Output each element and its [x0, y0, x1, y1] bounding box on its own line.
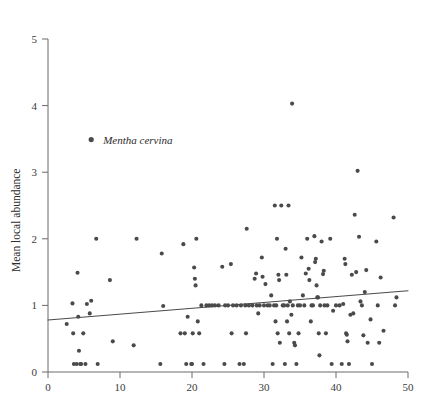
data-point	[220, 265, 224, 269]
data-point	[379, 275, 383, 279]
data-point	[328, 237, 332, 241]
data-point	[345, 339, 349, 343]
data-point	[192, 265, 196, 269]
data-point	[158, 362, 162, 366]
data-point	[374, 239, 378, 243]
data-point	[96, 362, 100, 366]
data-point	[253, 277, 257, 281]
data-point	[318, 303, 322, 307]
data-point	[277, 278, 281, 282]
y-tick-label: 5	[32, 33, 38, 45]
x-tick-label: 50	[403, 381, 415, 393]
data-point	[191, 331, 195, 335]
data-point	[237, 362, 241, 366]
data-point	[268, 303, 272, 307]
data-point	[70, 301, 74, 305]
data-point	[283, 362, 287, 366]
data-point	[242, 362, 246, 366]
data-point	[262, 303, 266, 307]
data-point	[393, 303, 397, 307]
data-point	[314, 257, 318, 261]
data-point	[254, 271, 258, 275]
data-point	[360, 303, 364, 307]
data-point	[298, 303, 302, 307]
data-point	[311, 303, 315, 307]
data-point	[297, 331, 301, 335]
data-point	[135, 237, 139, 241]
data-point	[184, 362, 188, 366]
data-point	[286, 303, 290, 307]
data-point	[94, 237, 98, 241]
data-point	[340, 362, 344, 366]
data-point	[301, 293, 305, 297]
x-tick-label: 40	[331, 381, 343, 393]
y-tick-label: 4	[32, 100, 38, 112]
data-point	[76, 315, 80, 319]
data-point	[290, 102, 294, 106]
data-point	[307, 267, 311, 271]
data-point	[392, 215, 396, 219]
data-point	[370, 362, 374, 366]
data-point	[330, 362, 334, 366]
data-point	[291, 303, 295, 307]
data-point	[235, 303, 239, 307]
data-point	[358, 299, 362, 303]
data-point	[275, 237, 279, 241]
data-point	[294, 362, 298, 366]
data-point	[181, 242, 185, 246]
data-point	[75, 362, 79, 366]
data-point	[201, 362, 205, 366]
data-point	[325, 303, 329, 307]
data-point	[363, 290, 367, 294]
data-point	[186, 315, 190, 319]
data-point	[381, 329, 385, 333]
data-point	[354, 270, 358, 274]
data-point	[276, 331, 280, 335]
data-point	[81, 331, 85, 335]
data-point	[345, 333, 349, 337]
data-point	[160, 251, 164, 255]
data-point	[315, 283, 319, 287]
data-point	[357, 235, 361, 239]
data-point	[79, 362, 83, 366]
data-point	[199, 303, 203, 307]
data-point	[256, 311, 260, 315]
data-point	[194, 283, 198, 287]
data-point	[261, 275, 265, 279]
data-point	[331, 309, 335, 313]
data-point	[353, 213, 357, 217]
data-point	[347, 362, 351, 366]
data-point	[285, 319, 289, 323]
data-point	[161, 304, 165, 308]
data-point	[312, 234, 316, 238]
data-point	[75, 271, 79, 275]
data-point	[324, 331, 328, 335]
data-point	[239, 303, 243, 307]
data-point	[369, 317, 373, 321]
data-point	[194, 237, 198, 241]
legend-series-label: Mentha cervina	[102, 134, 173, 146]
data-point	[289, 313, 293, 317]
data-point	[245, 227, 249, 231]
data-point	[302, 303, 306, 307]
data-point	[343, 257, 347, 261]
data-point	[230, 331, 234, 335]
x-tick-label: 10	[115, 381, 127, 393]
data-point	[71, 331, 75, 335]
data-point	[263, 282, 267, 286]
data-point	[351, 311, 355, 315]
data-point	[274, 303, 278, 307]
data-point	[260, 255, 264, 259]
data-point	[309, 319, 313, 323]
data-point	[366, 341, 370, 345]
chart-canvas: 012345 01020304050 Mean local abundance …	[0, 0, 426, 393]
data-point	[364, 268, 368, 272]
data-point	[304, 271, 308, 275]
data-point	[271, 362, 275, 366]
x-tick-label: 0	[45, 381, 51, 393]
data-point	[213, 303, 217, 307]
data-point	[276, 273, 280, 277]
data-point	[316, 295, 320, 299]
data-point	[278, 341, 282, 345]
data-point	[338, 303, 342, 307]
